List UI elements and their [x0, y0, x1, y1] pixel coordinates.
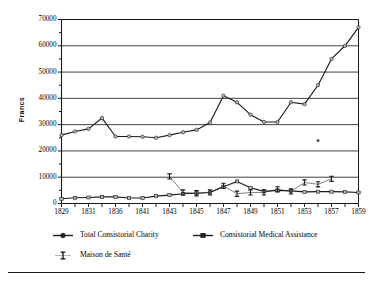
- data-point-square: [154, 195, 157, 198]
- data-point-circle: [357, 26, 360, 29]
- x-tick-label: 1853: [291, 208, 319, 216]
- data-point-circle: [316, 84, 319, 87]
- data-point-circle: [343, 44, 346, 47]
- bottom-divider: [8, 272, 365, 273]
- data-point-square: [114, 195, 117, 198]
- data-point-square: [343, 190, 346, 193]
- x-tick-label: 1829: [48, 208, 76, 216]
- data-point-circle: [114, 135, 117, 138]
- x-tick-label: 1841: [129, 208, 157, 216]
- data-point-square: [168, 194, 171, 197]
- x-tick-label: 1843: [156, 208, 184, 216]
- x-tick-label: 1836: [102, 208, 130, 216]
- data-point-circle: [289, 101, 292, 104]
- legend-label: Consistorial Medical Assistance: [220, 230, 317, 239]
- data-point-circle: [168, 133, 171, 136]
- data-point-circle: [303, 102, 306, 105]
- stray-marker: [317, 139, 320, 142]
- legend-marker-ibeam: [52, 251, 74, 260]
- data-point-square: [316, 190, 319, 193]
- data-point-square: [127, 196, 130, 199]
- data-point-circle: [87, 127, 90, 130]
- data-point-circle: [195, 128, 198, 131]
- data-point-square: [100, 195, 103, 198]
- data-point-circle: [181, 131, 184, 134]
- data-point-circle: [235, 101, 238, 104]
- plot-background: [62, 20, 359, 204]
- data-point-square: [330, 190, 333, 193]
- y-tick-label: 0: [53, 199, 57, 207]
- y-tick-label: 20000: [39, 146, 57, 154]
- data-point-square: [357, 191, 360, 194]
- x-tick-label: 1845: [183, 208, 211, 216]
- x-tick-label: 1859: [345, 208, 373, 216]
- legend-marker-circle: [52, 231, 74, 240]
- data-point-square: [60, 197, 63, 200]
- y-tick-label: 70000: [39, 15, 57, 23]
- data-point-square: [303, 190, 306, 193]
- data-point-circle: [249, 113, 252, 116]
- data-point-circle: [276, 120, 279, 123]
- legend-label: Maison de Santé: [80, 250, 131, 259]
- data-point-square: [73, 196, 76, 199]
- data-point-circle: [73, 130, 76, 133]
- y-tick-label: 30000: [39, 120, 57, 128]
- data-point-square: [235, 180, 238, 183]
- x-tick-label: 1847: [210, 208, 238, 216]
- data-point-square: [141, 196, 144, 199]
- y-tick-label: 50000: [39, 68, 57, 76]
- data-point-square: [249, 186, 252, 189]
- x-tick-label: 1831: [75, 208, 103, 216]
- y-axis-title: Francs: [18, 96, 25, 122]
- data-point-circle: [60, 133, 63, 136]
- data-point-square: [87, 196, 90, 199]
- y-tick-label: 40000: [39, 94, 57, 102]
- x-tick-label: 1857: [318, 208, 346, 216]
- x-tick-label: 1849: [237, 208, 265, 216]
- legend-label: Total Consistorial Charity: [80, 230, 159, 239]
- chart-figure: Francs 010000200003000040000500006000070…: [0, 0, 373, 285]
- data-point-circle: [330, 57, 333, 60]
- data-point-circle: [262, 120, 265, 123]
- data-point-circle: [208, 121, 211, 124]
- data-point-circle: [154, 136, 157, 139]
- data-point-circle: [127, 135, 130, 138]
- data-point-circle: [100, 116, 103, 119]
- y-tick-label: 10000: [39, 173, 57, 181]
- data-point-circle: [222, 94, 225, 97]
- legend-marker-triangle: [192, 231, 214, 240]
- y-tick-label: 60000: [39, 41, 57, 49]
- data-point-circle: [141, 135, 144, 138]
- x-tick-label: 1851: [264, 208, 292, 216]
